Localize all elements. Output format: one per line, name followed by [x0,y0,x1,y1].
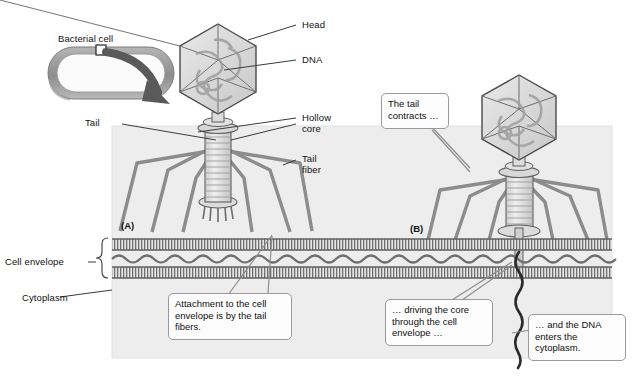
label-hollow-core-line1: Hollow [302,112,331,123]
label-hollow-core-line2: core [302,123,321,134]
figure-canvas: Bacterial cell Tail Head DNA Hollow core… [0,0,639,384]
tail-sheath-a [205,131,231,202]
label-tail-fiber-line1: Tail [302,153,317,164]
callout-attachment: Attachment to the cell envelope is by th… [168,293,292,340]
tail-sheath-b [506,176,533,228]
label-head: Head [302,19,325,30]
callout-driving-core: … driving the core through the cell enve… [385,299,493,346]
label-bacterial-cell: Bacterial cell [58,33,113,44]
label-tail-fiber-line2: fiber [302,164,321,175]
panel-label-a: (A) [121,220,134,231]
bacterial-cell-illustration [48,45,174,104]
label-tail: Tail [85,117,100,128]
label-cytoplasm: Cytoplasm [22,292,68,303]
callout-tail-contracts: The tail contracts … [381,93,449,129]
callout-dna-enters: … and the DNA enters the cytoplasm. [528,314,626,361]
panel-label-b: (B) [410,223,423,234]
label-dna: DNA [302,54,322,65]
label-cell-envelope: Cell envelope [5,256,64,267]
